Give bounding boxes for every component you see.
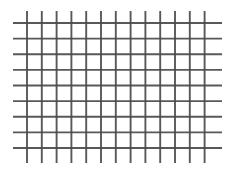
image-canvas [0, 0, 236, 171]
grid-svg [0, 0, 236, 171]
grid-pattern-figure [0, 0, 236, 171]
